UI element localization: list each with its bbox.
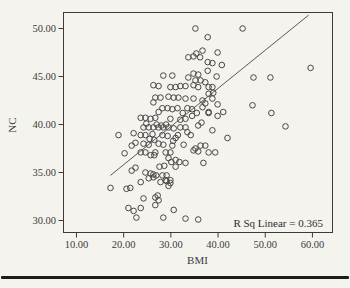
- data-point: [161, 73, 167, 79]
- data-point: [161, 215, 167, 221]
- data-point: [175, 105, 181, 111]
- data-point: [214, 74, 220, 80]
- data-point: [201, 160, 207, 166]
- data-point: [156, 83, 162, 89]
- r-squared-annotation: R Sq Linear = 0.365: [233, 217, 323, 229]
- data-point: [206, 150, 212, 156]
- scatter-figure: 30.00 35.00 40.00 45.00 50.00 10.00 20.0…: [0, 0, 350, 272]
- x-tick-label: 50.00: [245, 239, 285, 251]
- data-point: [116, 132, 122, 138]
- data-point: [251, 75, 257, 81]
- data-point: [151, 100, 157, 106]
- data-point: [308, 65, 314, 71]
- data-point: [151, 82, 157, 88]
- data-point: [183, 96, 189, 102]
- data-point: [210, 96, 216, 102]
- data-point: [193, 26, 199, 32]
- data-point: [141, 141, 147, 147]
- y-tick-label: 30.00: [32, 215, 56, 227]
- data-point: [205, 34, 211, 40]
- data-point: [215, 113, 221, 119]
- x-tick-label: 10.00: [56, 239, 96, 251]
- data-point: [133, 140, 139, 146]
- data-point: [283, 124, 289, 130]
- scatter-plot-canvas: [0, 0, 350, 272]
- y-tick-label: 40.00: [32, 119, 56, 131]
- data-point: [183, 116, 189, 122]
- data-point: [131, 130, 137, 136]
- data-point: [220, 109, 226, 115]
- x-tick-label: 30.00: [151, 239, 191, 251]
- data-point: [171, 126, 177, 132]
- data-point: [128, 185, 134, 191]
- data-point: [215, 102, 221, 108]
- data-point: [183, 216, 189, 222]
- data-point: [166, 94, 172, 100]
- data-point: [134, 215, 140, 221]
- x-tick-label: 20.00: [104, 239, 144, 251]
- y-axis-title: NC: [6, 117, 18, 133]
- data-point: [138, 179, 144, 185]
- data-point: [200, 48, 206, 54]
- data-point: [165, 133, 171, 139]
- data-point: [108, 185, 114, 191]
- y-tick-label: 45.00: [32, 71, 56, 83]
- data-point: [138, 205, 144, 211]
- data-point: [205, 68, 211, 74]
- x-tick-label: 40.00: [198, 239, 238, 251]
- data-point: [122, 151, 128, 157]
- y-tick-label: 35.00: [32, 167, 56, 179]
- data-point: [133, 165, 139, 171]
- data-point: [173, 164, 179, 170]
- data-point: [219, 62, 225, 68]
- data-point: [268, 75, 274, 81]
- data-point: [212, 150, 218, 156]
- data-point: [191, 96, 197, 102]
- data-point: [240, 26, 246, 32]
- data-point: [178, 117, 184, 123]
- data-point: [153, 202, 159, 208]
- data-point: [183, 160, 189, 166]
- data-point: [126, 205, 132, 211]
- data-point: [189, 113, 195, 119]
- data-point: [210, 128, 216, 134]
- data-point: [210, 84, 216, 90]
- data-point: [131, 208, 137, 214]
- data-point: [124, 186, 130, 192]
- page-rule: [1, 276, 349, 279]
- data-point: [186, 55, 192, 61]
- data-point: [171, 207, 177, 213]
- data-point: [166, 155, 172, 161]
- data-point: [156, 109, 162, 115]
- data-point: [195, 217, 201, 223]
- data-point: [186, 75, 192, 81]
- data-point: [200, 104, 206, 110]
- data-point: [129, 168, 135, 174]
- data-point: [195, 84, 201, 90]
- data-point: [143, 170, 149, 176]
- data-point: [129, 143, 135, 149]
- y-tick-label: 50.00: [32, 23, 56, 35]
- x-tick-label: 60.00: [292, 239, 332, 251]
- data-point: [215, 50, 221, 56]
- data-point: [170, 73, 176, 79]
- data-point: [225, 135, 231, 141]
- data-point: [250, 103, 256, 109]
- data-point: [181, 142, 187, 148]
- x-axis-title: BMI: [63, 254, 332, 266]
- data-point: [269, 110, 275, 116]
- data-point: [180, 110, 186, 116]
- data-point: [141, 196, 147, 202]
- data-point: [168, 116, 174, 122]
